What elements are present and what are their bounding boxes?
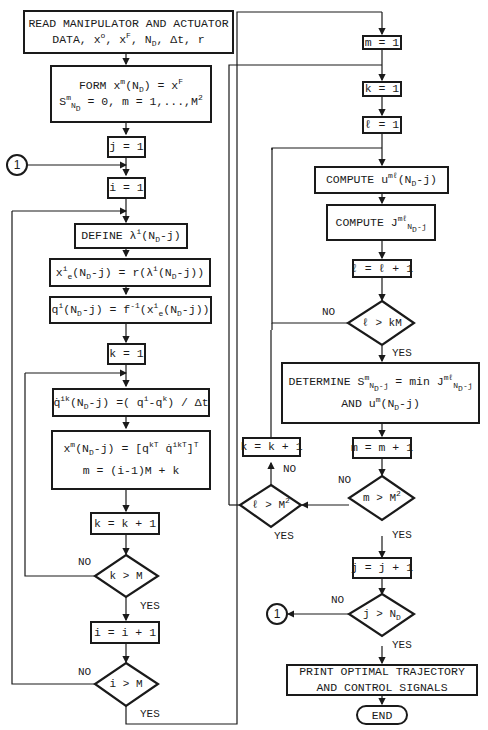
k-decision-text: k > M bbox=[109, 570, 142, 582]
read-data-box: READ MANIPULATOR AND ACTUATOR DATA, xo, … bbox=[23, 10, 234, 54]
print-line-2: AND CONTROL SIGNALS bbox=[316, 680, 447, 696]
xm-line-1: xm(ND-j) = [qkT q̇ikT]T bbox=[63, 441, 198, 457]
right-k-init-box: k = 1 bbox=[362, 81, 402, 97]
m-m2-no-label: NO bbox=[338, 474, 351, 486]
print-line-1: PRINT OPTIMAL TRAJECTORY bbox=[299, 664, 465, 680]
k-decision-yes-label: YES bbox=[140, 600, 160, 612]
compute-u-text: COMPUTE umℓ(ND-j) bbox=[326, 172, 437, 188]
m-init-box: m = 1 bbox=[362, 35, 402, 50]
i-init-box: i = 1 bbox=[107, 177, 146, 199]
j-decision-no-label: NO bbox=[331, 594, 344, 606]
read-line-1: READ MANIPULATOR AND ACTUATOR bbox=[28, 16, 228, 32]
k-decision-no-label: NO bbox=[78, 556, 91, 568]
j-decision-yes-label: YES bbox=[392, 639, 412, 651]
q-box: qi(ND-j) = f-1(xie(ND-j)) bbox=[49, 296, 212, 324]
l-km-no-label: NO bbox=[322, 306, 335, 318]
l-km-yes-label: YES bbox=[392, 347, 412, 359]
end-terminal: END bbox=[356, 705, 408, 725]
l-init-box: ℓ = 1 bbox=[362, 116, 402, 134]
qdot-box: q̇ik(ND-j) =( qi-qk) / Δt bbox=[52, 388, 210, 417]
l-m2-no-label: NO bbox=[283, 463, 296, 475]
l-m2-yes-label: YES bbox=[274, 530, 294, 542]
xm-box: xm(ND-j) = [qkT q̇ikT]T m = (i-1)M + k bbox=[51, 430, 211, 490]
qdot-text: q̇ik(ND-j) =( qi-qk) / Δt bbox=[53, 395, 208, 411]
j-init-box: j = 1 bbox=[107, 136, 146, 158]
form-line-2: SmND = 0, m = 1,...,M2 bbox=[59, 94, 202, 110]
determine-box: DETERMINE SmND-j = min JmℓND-j AND um(ND… bbox=[281, 362, 480, 424]
j-increment-box: j = j + 1 bbox=[352, 557, 412, 579]
connector-1-out: 1 bbox=[266, 603, 288, 625]
l-increment-box: ℓ = ℓ + 1 bbox=[352, 259, 412, 278]
right-k-increment-box: k = k + 1 bbox=[242, 437, 301, 457]
xe-text: xie(ND-j) = r(λi(ND-j)) bbox=[56, 265, 204, 281]
define-lambda-text: DEFINE λi(ND-j) bbox=[81, 228, 180, 244]
compute-j-text: COMPUTE JmℓND-j bbox=[336, 215, 427, 231]
q-text: qi(ND-j) = f-1(xie(ND-j)) bbox=[52, 302, 210, 318]
xm-line-2: m = (i-1)M + k bbox=[83, 463, 180, 479]
determine-line-2: AND um(ND-j) bbox=[341, 396, 420, 412]
determine-line-1: DETERMINE SmND-j = min JmℓND-j bbox=[288, 374, 472, 390]
print-box: PRINT OPTIMAL TRAJECTORY AND CONTROL SIG… bbox=[286, 664, 478, 696]
i-increment-box: i = i + 1 bbox=[90, 621, 160, 644]
k-increment-box: k = k + 1 bbox=[90, 512, 160, 535]
m-m2-decision-text: m > M2 bbox=[363, 492, 401, 504]
i-decision-yes-label: YES bbox=[140, 708, 160, 720]
read-line-2: DATA, xo, xF, ND, Δt, r bbox=[52, 32, 205, 48]
i-decision-no-label: NO bbox=[78, 666, 91, 678]
k-init-box: k = 1 bbox=[107, 343, 146, 365]
xe-box: xie(ND-j) = r(λi(ND-j)) bbox=[49, 258, 211, 287]
m-increment-box: m = m + 1 bbox=[352, 437, 412, 459]
l-km-decision-text: ℓ > kM bbox=[362, 317, 402, 329]
l-m2-decision-text: ℓ > M2 bbox=[252, 499, 290, 511]
j-decision-text: j > ND bbox=[363, 608, 401, 620]
form-line-1: FORM xm(ND) = xF bbox=[79, 78, 183, 94]
form-box: FORM xm(ND) = xF SmND = 0, m = 1,...,M2 bbox=[50, 65, 212, 123]
i-decision-text: i > M bbox=[109, 678, 142, 690]
connector-1-in: 1 bbox=[6, 154, 28, 176]
m-m2-yes-label: YES bbox=[392, 529, 412, 541]
compute-u-box: COMPUTE umℓ(ND-j) bbox=[314, 166, 449, 194]
define-lambda-box: DEFINE λi(ND-j) bbox=[74, 223, 188, 249]
compute-j-box: COMPUTE JmℓND-j bbox=[326, 204, 436, 241]
